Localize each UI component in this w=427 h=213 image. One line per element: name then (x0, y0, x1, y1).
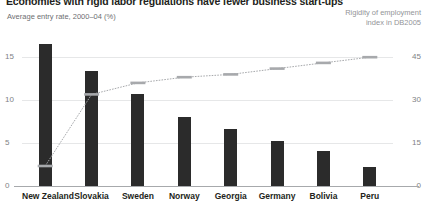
line-marker-georgia (223, 73, 238, 76)
line-marker-norway (177, 76, 192, 79)
right-axis-caption-line-1: Rigidity of employment (291, 8, 421, 18)
right-axis-caption: Rigidity of employment index in DB2005 (291, 8, 421, 28)
line-marker-slovakia (84, 93, 99, 96)
x-axis-labels: New ZealandSlovakiaSwedenNorwayGeorgiaGe… (22, 190, 393, 210)
x-axis-baseline (14, 186, 419, 187)
x-label-norway: Norway (161, 190, 207, 202)
y-tick-right: 45 (412, 53, 421, 61)
y-tick-left: 5 (5, 139, 9, 147)
line-marker-sweden (130, 82, 145, 85)
right-axis-caption-line-2: index in DB2005 (291, 18, 421, 28)
line-marker-bolivia (316, 62, 331, 65)
y-tick-left: 10 (5, 96, 14, 104)
rigidity-line (45, 57, 370, 166)
y-tick-left: 0 (5, 182, 9, 190)
x-label-new-zealand: New Zealand (22, 190, 68, 202)
y-tick-right: 30 (412, 96, 421, 104)
line-series (22, 40, 393, 186)
plot-area: 151050 4530150 (22, 40, 393, 186)
x-label-slovakia: Slovakia (68, 190, 114, 202)
line-markers (38, 56, 378, 167)
line-marker-germany (270, 67, 285, 70)
y-tick-right: 15 (412, 139, 421, 147)
y-tick-left: 15 (5, 53, 14, 61)
line-marker-peru (362, 56, 377, 59)
x-label-peru: Peru (347, 190, 393, 202)
x-label-sweden: Sweden (115, 190, 161, 202)
x-label-georgia: Georgia (208, 190, 254, 202)
chart-container: Economies with rigid labor regulations h… (0, 0, 427, 213)
line-marker-new-zealand (38, 165, 53, 168)
x-label-germany: Germany (254, 190, 300, 202)
left-axis-caption: Average entry rate, 2000–04 (%) (7, 12, 116, 21)
x-label-bolivia: Bolivia (300, 190, 346, 202)
chart-title: Economies with rigid labor regulations h… (6, 0, 346, 7)
